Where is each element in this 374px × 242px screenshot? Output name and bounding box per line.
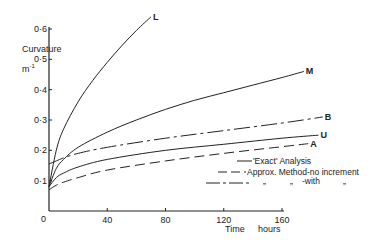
series-label-L: L — [153, 12, 159, 22]
legend-label-with: -with — [302, 176, 320, 186]
y-tick-label: 0·6 — [34, 24, 47, 34]
y-axis-label: Curvature — [22, 44, 62, 54]
ticks: 0·10·20·30·40·50·64080120160 — [34, 24, 290, 225]
legend: 'Exact' Analysis Approx. Method-no incre… — [206, 156, 360, 186]
y-tick-label: 0·3 — [34, 115, 47, 125]
y-axis-unit: m-1 — [22, 63, 35, 74]
y-tick-label: 0·1 — [34, 176, 47, 186]
series-label-B: B — [325, 112, 332, 122]
x-axis-unit: hours — [258, 224, 281, 234]
x-axis-label: Time — [225, 224, 245, 234]
y-tick-label: 0·5 — [34, 54, 47, 64]
curvature-chart: 0·10·20·30·40·50·64080120160 LMBUA Curva… — [0, 0, 374, 242]
series-label-M: M — [306, 66, 314, 76]
y-tick-label: 0·4 — [34, 85, 47, 95]
legend-ditto-3: „ — [343, 176, 346, 186]
series-label-A: A — [310, 139, 317, 149]
origin-label: 0 — [41, 214, 46, 224]
legend-label-exact: 'Exact' Analysis — [253, 156, 311, 166]
x-tick-label: 40 — [102, 215, 112, 225]
legend-ditto-2: „ — [290, 176, 293, 186]
legend-ditto-1: „ — [263, 176, 266, 186]
y-tick-label: 0·2 — [34, 145, 47, 155]
series-label-U: U — [320, 130, 327, 140]
x-tick-label: 80 — [160, 215, 170, 225]
